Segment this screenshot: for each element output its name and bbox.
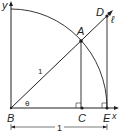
point-B-label: B	[7, 112, 14, 124]
y-axis	[9, 1, 13, 108]
point-E-label: E	[103, 112, 111, 124]
radius-label: 1	[38, 67, 43, 76]
y-axis-label: y	[1, 0, 9, 11]
unit-circle-arc	[11, 9, 107, 108]
right-angle-mark-C	[76, 103, 81, 108]
point-C-label: C	[78, 112, 86, 124]
diagram-canvas: y x A B C D E ℓ θ 1 1	[0, 0, 125, 136]
point-E-dot	[105, 106, 108, 109]
base-length-label: 1	[57, 123, 62, 133]
point-D-dot	[105, 14, 108, 17]
point-B-dot	[10, 107, 12, 109]
line-l	[11, 10, 113, 108]
point-A-label: A	[76, 25, 84, 37]
point-C-dot	[80, 106, 83, 109]
point-A-dot	[79, 39, 83, 43]
line-l-label: ℓ	[110, 14, 115, 25]
angle-theta-label: θ	[25, 99, 30, 108]
x-axis-label: x	[111, 111, 117, 121]
point-D-label: D	[96, 6, 104, 18]
